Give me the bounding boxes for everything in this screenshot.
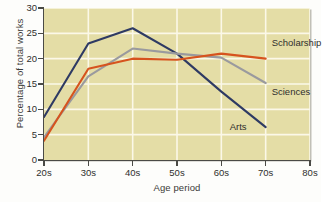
plot-area bbox=[44, 8, 310, 160]
x-tick-mark bbox=[88, 161, 89, 166]
x-tick-label: 60s bbox=[201, 167, 241, 178]
y-tick-label: 10 bbox=[3, 103, 37, 114]
x-tick-label: 20s bbox=[24, 167, 64, 178]
x-tick-mark bbox=[176, 161, 177, 166]
series-label-sciences: Sciences bbox=[272, 86, 311, 97]
y-tick-mark bbox=[38, 134, 43, 135]
y-tick-mark bbox=[38, 83, 43, 84]
y-tick-label: 20 bbox=[3, 53, 37, 64]
series-label-scholarship: Scholarship bbox=[272, 37, 322, 48]
y-tick-label: 30 bbox=[3, 2, 37, 13]
x-tick-mark bbox=[309, 161, 310, 166]
x-tick-mark bbox=[43, 161, 44, 166]
series-line-arts bbox=[44, 28, 266, 127]
y-tick-label: 0 bbox=[3, 154, 37, 165]
x-tick-mark bbox=[265, 161, 266, 166]
x-axis-title: Age period bbox=[44, 182, 310, 193]
y-tick-mark bbox=[38, 33, 43, 34]
plot-canvas bbox=[44, 8, 310, 160]
x-tick-mark bbox=[221, 161, 222, 166]
x-tick-label: 70s bbox=[246, 167, 286, 178]
y-tick-mark bbox=[38, 109, 43, 110]
y-tick-label: 25 bbox=[3, 27, 37, 38]
x-tick-label: 80s bbox=[290, 167, 326, 178]
y-tick-mark bbox=[38, 58, 43, 59]
y-tick-mark bbox=[38, 159, 43, 160]
y-axis-title: Percentage of total works bbox=[14, 0, 25, 149]
x-tick-label: 30s bbox=[68, 167, 108, 178]
series-label-arts: Arts bbox=[230, 121, 247, 132]
y-tick-label: 5 bbox=[3, 129, 37, 140]
y-axis-line bbox=[43, 7, 44, 161]
x-tick-label: 50s bbox=[157, 167, 197, 178]
y-tick-label: 15 bbox=[3, 78, 37, 89]
x-tick-label: 40s bbox=[113, 167, 153, 178]
y-tick-mark bbox=[38, 7, 43, 8]
x-tick-mark bbox=[132, 161, 133, 166]
